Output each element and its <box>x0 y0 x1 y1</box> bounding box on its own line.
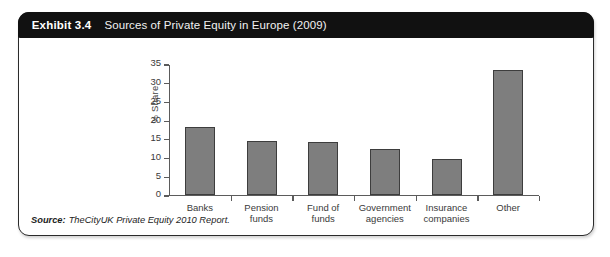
bar <box>493 70 523 195</box>
source-value: TheCityUK Private Equity 2010 Report. <box>69 215 230 225</box>
x-axis-category-label: Pension funds <box>231 202 293 224</box>
source-note: Source:TheCityUK Private Equity 2010 Rep… <box>31 215 230 225</box>
y-axis-tick-label: 30 <box>150 76 161 87</box>
x-axis-category-label: Other <box>477 202 539 213</box>
y-axis-tick: 30 <box>164 83 169 84</box>
x-axis-category-label: Banks <box>169 202 231 213</box>
x-axis-category-label: Insurance companies <box>416 202 478 224</box>
bar <box>247 141 277 195</box>
y-axis-tick-label: 35 <box>150 57 161 68</box>
y-axis-tick: 5 <box>164 177 169 178</box>
x-axis-tick <box>292 196 293 201</box>
y-axis-tick-label: 15 <box>150 132 161 143</box>
x-axis-tick <box>416 196 417 201</box>
plot-area: 05101520253035BanksPension fundsFund of … <box>169 65 539 196</box>
y-axis-tick: 25 <box>164 102 169 103</box>
y-axis-tick: 20 <box>164 121 169 122</box>
source-label: Source: <box>31 215 66 225</box>
bar <box>308 142 338 195</box>
y-axis-tick: 35 <box>164 64 169 65</box>
exhibit-header: Exhibit 3.4 Sources of Private Equity in… <box>18 12 594 38</box>
y-axis-tick: 0 <box>164 195 169 196</box>
x-axis-tick <box>539 196 540 201</box>
bar <box>432 159 462 195</box>
x-axis-category-label: Government agencies <box>354 202 416 224</box>
y-axis-tick-label: 5 <box>156 170 161 181</box>
bar <box>370 149 400 195</box>
y-axis-tick-label: 0 <box>156 188 161 199</box>
y-axis-line <box>169 65 170 196</box>
y-axis-tick: 15 <box>164 139 169 140</box>
bar-chart: % Share 05101520253035BanksPension funds… <box>19 39 592 209</box>
y-axis-tick-label: 10 <box>150 151 161 162</box>
exhibit-number-label: Exhibit 3.4 <box>32 19 92 31</box>
x-axis-category-label: Fund of funds <box>292 202 354 224</box>
x-axis-tick <box>477 196 478 201</box>
y-axis-tick: 10 <box>164 158 169 159</box>
y-axis-tick-label: 25 <box>150 95 161 106</box>
x-axis-tick <box>231 196 232 201</box>
exhibit-card: Exhibit 3.4 Sources of Private Equity in… <box>18 12 594 236</box>
x-axis-tick <box>354 196 355 201</box>
y-axis-tick-label: 20 <box>150 114 161 125</box>
bar <box>185 127 215 194</box>
exhibit-title: Sources of Private Equity in Europe (200… <box>104 19 326 31</box>
